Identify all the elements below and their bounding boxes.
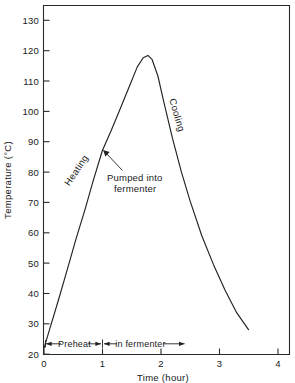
x-tick-label: 1 [100, 358, 105, 369]
y-tick-label: 50 [28, 258, 39, 269]
x-tick-label: 0 [41, 358, 46, 369]
y-tick-label: 100 [23, 106, 39, 117]
y-tick-label: 130 [23, 15, 39, 26]
x-axis-title: Time (hour) [137, 372, 189, 383]
y-tick-label: 30 [28, 318, 39, 329]
y-tick-label: 120 [23, 45, 39, 56]
pumped-into-fermenter-label-line2: fermenter [114, 183, 156, 194]
in-fermenter-span-label: in fermenter [115, 339, 165, 349]
x-tick-label: 3 [217, 358, 222, 369]
y-tick-label: 90 [28, 136, 39, 147]
chart-figure: 130 120 110 100 90 80 70 60 50 40 30 20 … [0, 0, 295, 383]
y-tick-label: 20 [28, 349, 39, 360]
temperature-time-chart: 130 120 110 100 90 80 70 60 50 40 30 20 … [0, 0, 295, 383]
y-tick-label: 110 [23, 76, 39, 87]
y-tick-label: 60 [28, 227, 39, 238]
x-tick-label: 2 [158, 358, 163, 369]
x-tick-label: 4 [275, 358, 280, 369]
preheat-span-label: Preheat [58, 339, 91, 349]
pumped-into-fermenter-label-line1: Pumped into [107, 172, 163, 183]
y-tick-label: 40 [28, 288, 39, 299]
y-axis-title: Temperature (°C) [2, 141, 13, 219]
y-tick-label: 70 [28, 197, 39, 208]
y-tick-label: 80 [28, 167, 39, 178]
